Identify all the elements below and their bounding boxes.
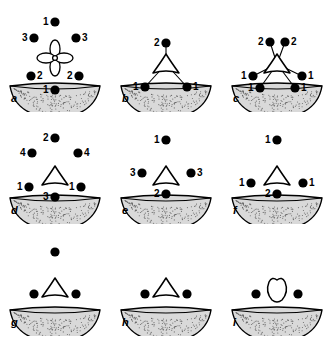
substrate-crescent: [232, 195, 322, 224]
substrate-crescent: [232, 83, 322, 112]
panel-h-letter: h: [122, 316, 129, 328]
panel-a-dot-label: 3: [82, 33, 88, 43]
substrate-crescent: [121, 195, 211, 224]
panel-c-dot-label: 2: [258, 37, 264, 47]
panel-g-letter: g: [11, 316, 18, 328]
substrate-crescent: [10, 307, 100, 336]
panel-h: h: [111, 224, 222, 336]
panel-a-dot-label: 2: [67, 71, 73, 81]
panel-d-dot-label: 4: [84, 148, 90, 158]
figure-panel-grid: 133221a 211b 221111c 24411: [0, 0, 335, 337]
panel-b-dot-label: 2: [154, 38, 160, 48]
panel-b: 211b: [111, 0, 222, 112]
panel-d-dot-label: 3: [43, 192, 49, 202]
panel-d: 244113d: [0, 112, 111, 224]
panel-f-graphic: [222, 112, 333, 224]
panel-f-dot-label: 1: [239, 178, 245, 188]
panel-f-dot-label: 1: [309, 178, 315, 188]
panel-f-dot-label: 2: [265, 189, 271, 199]
panel-a: 133221a: [0, 0, 111, 112]
panel-e: 1332e: [111, 112, 222, 224]
panel-f: 1112f: [222, 112, 333, 224]
panel-i-letter: i: [233, 316, 236, 328]
panel-c-dot-label: 1: [301, 83, 307, 93]
panel-e-letter: e: [122, 204, 128, 216]
panel-b-dot-label: 1: [133, 82, 139, 92]
panel-b-letter: b: [122, 92, 129, 104]
panel-c-dot-label: 2: [291, 37, 297, 47]
panel-e-dot-label: 3: [197, 168, 203, 178]
panel-c-dot-label: 1: [241, 71, 247, 81]
panel-a-letter: a: [11, 92, 17, 104]
panel-d-letter: d: [11, 204, 18, 216]
panel-e-dot-label: 3: [130, 168, 136, 178]
panel-b-dot-label: 1: [193, 82, 199, 92]
panel-i-graphic: [222, 224, 333, 336]
panel-c-dot-label: 1: [248, 83, 254, 93]
panel-c: 221111c: [222, 0, 333, 112]
panel-f-letter: f: [233, 204, 237, 216]
panel-a-dot-label: 3: [22, 33, 28, 43]
panel-a-dot-label: 1: [43, 85, 49, 95]
panel-a-dot-label: 2: [37, 71, 43, 81]
panel-i: i: [222, 224, 333, 336]
panel-c-letter: c: [233, 92, 239, 104]
panel-d-dot-label: 2: [43, 133, 49, 143]
substrate-crescent: [121, 307, 211, 336]
panel-d-dot-label: 1: [17, 182, 23, 192]
panel-a-dot-label: 1: [43, 17, 49, 27]
panel-d-dot-label: 1: [69, 182, 75, 192]
panel-g: g: [0, 224, 111, 336]
panel-f-dot-label: 1: [265, 135, 271, 145]
substrate-crescent: [232, 307, 322, 336]
panel-c-dot-label: 1: [308, 71, 314, 81]
panel-e-dot-label: 1: [154, 135, 160, 145]
panel-e-dot-label: 2: [154, 189, 160, 199]
panel-d-dot-label: 4: [20, 148, 26, 158]
